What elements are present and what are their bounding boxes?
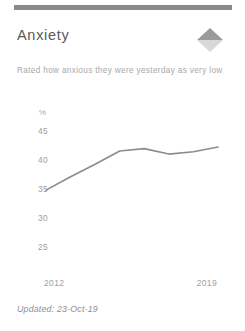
page-title: Anxiety bbox=[17, 27, 69, 43]
card-header: Anxiety bbox=[17, 27, 229, 57]
x-axis-tick-start: 2012 bbox=[44, 278, 64, 288]
series-line-svg bbox=[44, 104, 224, 284]
x-axis: 2012 2019 bbox=[0, 278, 245, 294]
trend-down-triangle-icon bbox=[197, 40, 223, 52]
anxiety-metric-card: Anxiety Rated how anxious they were yest… bbox=[0, 0, 245, 331]
card-accent-bar bbox=[14, 5, 232, 10]
plot-area bbox=[44, 104, 224, 284]
line-chart: % 45 40 35 30 25 bbox=[0, 104, 245, 284]
updated-timestamp: Updated: 23-Oct-19 bbox=[17, 304, 98, 314]
x-axis-tick-end: 2019 bbox=[197, 278, 217, 288]
card-description: Rated how anxious they were yesterday as… bbox=[17, 65, 223, 77]
y-axis: % 45 40 35 30 25 bbox=[0, 104, 48, 284]
series-line bbox=[46, 147, 218, 190]
trend-up-triangle-icon bbox=[197, 28, 223, 40]
trend-up-diamond-icon[interactable] bbox=[194, 27, 226, 53]
